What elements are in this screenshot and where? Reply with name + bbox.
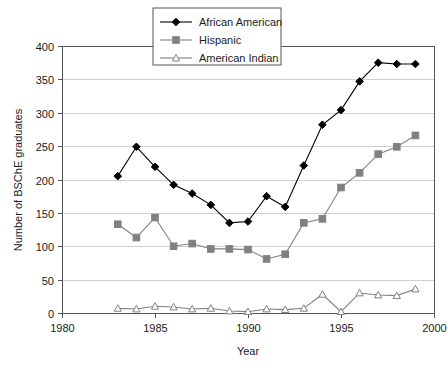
line-chart: 050100150200250300350400 198019851990199…	[0, 0, 448, 373]
data-point-square	[319, 216, 326, 223]
y-tick-label: 400	[36, 41, 54, 53]
chart-figure: 050100150200250300350400 198019851990199…	[0, 0, 448, 373]
data-point-square	[226, 246, 233, 253]
series-african-american	[114, 59, 419, 227]
data-point-square	[375, 151, 382, 158]
data-point-square	[338, 184, 345, 191]
data-point-square	[115, 221, 122, 228]
y-axis-title: Number of BSChE graduates	[12, 108, 24, 251]
data-point-square	[282, 251, 289, 258]
data-point-square	[152, 214, 159, 221]
x-tick-label: 1980	[50, 322, 74, 334]
y-tick-label: 300	[36, 108, 54, 120]
data-point-square	[133, 234, 140, 241]
data-point-square	[356, 170, 363, 177]
legend-item-label: African American	[199, 16, 282, 28]
x-tick-label: 1990	[236, 322, 260, 334]
series-american-indian	[114, 285, 419, 314]
data-point-square	[394, 143, 401, 150]
data-point-square	[208, 246, 215, 253]
data-point-diamond	[393, 60, 401, 68]
data-point-square	[189, 240, 196, 247]
data-point-triangle	[356, 289, 363, 295]
legend: African AmericanHispanicAmerican Indian	[153, 8, 282, 65]
data-point-square	[263, 256, 270, 263]
y-tick-label: 100	[36, 241, 54, 253]
data-point-triangle	[319, 291, 326, 297]
y-tick-label: 50	[42, 275, 54, 287]
y-tick-label: 350	[36, 74, 54, 86]
data-point-square	[245, 246, 252, 253]
data-point-diamond	[300, 162, 308, 170]
data-point-diamond	[114, 172, 122, 180]
data-point-square	[173, 37, 180, 44]
data-point-square	[301, 220, 308, 227]
y-tick-label: 250	[36, 141, 54, 153]
x-tick-label: 1995	[329, 322, 353, 334]
data-point-diamond	[281, 203, 289, 211]
x-axis-ticks-group: 19801985199019952000	[50, 313, 446, 334]
data-point-diamond	[244, 218, 252, 226]
y-tick-label: 200	[36, 175, 54, 187]
data-point-diamond	[263, 192, 271, 200]
data-point-square	[412, 132, 419, 139]
data-point-square	[170, 243, 177, 250]
y-axis-ticks-group: 050100150200250300350400	[36, 41, 62, 320]
data-series-group	[114, 59, 419, 315]
gridlines-group	[62, 80, 434, 314]
data-point-diamond	[188, 190, 196, 198]
legend-item-label: Hispanic	[199, 34, 242, 46]
x-axis-title: Year	[237, 345, 260, 357]
data-point-diamond	[412, 60, 420, 68]
y-tick-label: 0	[48, 308, 54, 320]
data-point-triangle	[412, 285, 419, 291]
y-tick-label: 150	[36, 208, 54, 220]
x-tick-label: 2000	[422, 322, 446, 334]
legend-item-label: American Indian	[199, 52, 279, 64]
x-tick-label: 1985	[143, 322, 167, 334]
